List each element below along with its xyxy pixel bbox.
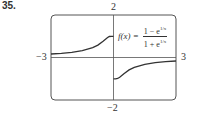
formula-lhs: f(x) =	[118, 31, 139, 41]
curve-right-branch	[114, 61, 177, 79]
y-max-tick-label: 2	[111, 2, 116, 12]
formula-fraction: 1 − e1/x 1 + e1/x	[143, 24, 167, 48]
y-min-tick-label: −2	[107, 103, 118, 113]
chart-plot	[0, 0, 201, 116]
formula-numerator: 1 − e1/x	[143, 24, 167, 37]
formula-denominator: 1 + e1/x	[144, 37, 166, 49]
x-max-tick-label: 3	[181, 52, 186, 62]
curve-left-branch	[51, 36, 114, 54]
function-formula: f(x) = 1 − e1/x 1 + e1/x	[118, 24, 167, 48]
x-min-tick-label: −3	[36, 52, 47, 62]
